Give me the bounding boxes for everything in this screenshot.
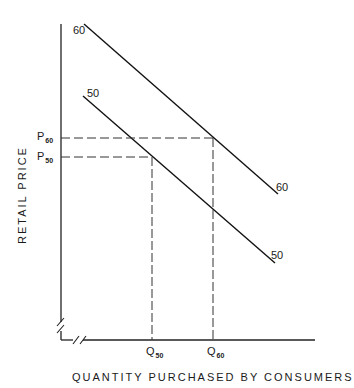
price-mark-sub: 50	[45, 157, 53, 164]
price-mark-letter: P	[37, 150, 44, 162]
quantity-mark-letter: Q	[146, 345, 155, 357]
quantity-mark-sub: 60	[217, 352, 225, 359]
price-mark-p60: P60	[37, 131, 53, 144]
curve-60-start-label: 60	[73, 25, 85, 36]
price-mark-letter: P	[37, 130, 44, 142]
price-mark-p50: P50	[37, 151, 53, 164]
quantity-mark-q50: Q50	[146, 346, 163, 359]
quantity-mark-sub: 50	[156, 352, 164, 359]
curve-60-end-label: 60	[276, 182, 288, 193]
y-axis-title: RETAIL PRICE	[17, 146, 28, 244]
quantity-mark-q60: Q60	[207, 346, 224, 359]
price-mark-sub: 60	[45, 137, 53, 144]
curve-50	[83, 96, 275, 263]
x-axis-title: QUANTITY PURCHASED BY CONSUMERS	[72, 372, 354, 383]
curve-50-end-label: 50	[271, 250, 283, 261]
curve-50-start-label: 50	[87, 88, 99, 99]
curve-60	[84, 24, 278, 194]
quantity-mark-letter: Q	[207, 345, 216, 357]
